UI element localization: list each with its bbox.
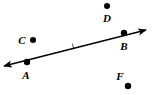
point-label-d: D [103, 13, 111, 24]
point-dot-a [24, 59, 30, 65]
tick-mark [72, 43, 73, 48]
point-label-c: C [18, 35, 25, 46]
point-dot-b [121, 30, 127, 36]
point-label-f: F [116, 71, 123, 82]
geometry-figure: A B C D F [0, 0, 153, 95]
point-dot-c [30, 37, 36, 43]
point-label-a: A [22, 70, 29, 81]
point-dot-f [125, 83, 131, 89]
point-label-b: B [120, 41, 127, 52]
geometry-drawing-surface [0, 0, 153, 95]
point-dot-d [104, 3, 110, 9]
